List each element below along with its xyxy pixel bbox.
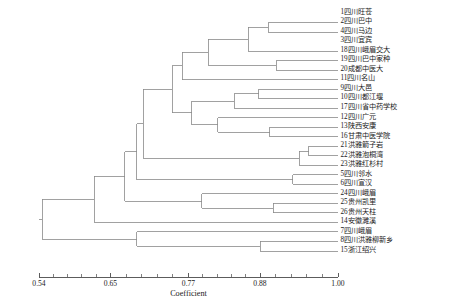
leaf-label: 23洪雅红杉村 (341, 161, 383, 168)
leaf-label: 3四川宜宾 (341, 37, 373, 44)
leaf-label: 4四川马边 (341, 28, 373, 35)
leaf-label: 15浙江绍兴 (341, 247, 376, 254)
leaf-label: 7四川峨眉 (341, 228, 373, 235)
leaf-label: 10四川都江堰 (341, 94, 383, 101)
leaf-label: 6四川宣汉 (341, 180, 373, 187)
axis-tick-label: 1.00 (331, 280, 344, 288)
leaf-label: 14安徽濉溪 (341, 218, 376, 225)
leaf-label: 20成都中医大 (341, 66, 383, 73)
leaf-label: 25贵州凯里 (341, 199, 376, 206)
leaf-label: 21洪雅箭子岩 (341, 142, 383, 149)
axis-tick-label: 0.54 (32, 280, 45, 288)
leaf-label: 19四川巴中家种 (341, 56, 390, 63)
leaf-label: 8四川洪雅柳新乡 (341, 237, 394, 244)
leaf-label: 18四川峨眉交大 (341, 47, 390, 54)
leaf-label: 24四川峨眉 (341, 190, 376, 197)
axis-title: Coefficient (170, 289, 207, 298)
leaf-label: 22洪雅泡桐湾 (341, 152, 383, 159)
leaf-label: 9四川大邑 (341, 85, 373, 92)
axis-tick-label: 0.77 (182, 280, 195, 288)
leaf-label: 5四川邻水 (341, 171, 373, 178)
dendrogram-branches (39, 23, 338, 251)
axis-line-and-ticks (39, 273, 338, 278)
leaf-label: 2四川巴中 (341, 18, 373, 25)
leaf-label: 1四川旺苍 (341, 9, 373, 16)
dendrogram-figure: 1四川旺苍2四川巴中4四川马边3四川宜宾18四川峨眉交大19四川巴中家种20成都… (0, 0, 475, 308)
leaf-label: 16甘肃中医学院 (341, 133, 390, 140)
leaf-label: 13陕西安康 (341, 123, 376, 130)
axis-tick-label: 0.88 (253, 280, 266, 288)
leaf-label: 12四川广元 (341, 114, 376, 121)
axis-tick-label: 0.65 (104, 280, 117, 288)
dendrogram-canvas (0, 0, 475, 308)
leaf-label: 17四川省中药学校 (341, 104, 397, 111)
leaf-label: 26贵州天柱 (341, 209, 376, 216)
leaf-label: 11四川名山 (341, 75, 376, 82)
